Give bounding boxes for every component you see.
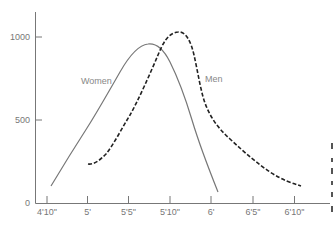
y-tick-label-0: 0 — [25, 198, 30, 208]
y-tick-label-500: 500 — [15, 115, 30, 125]
x-tick-label: 6' — [208, 207, 215, 217]
clipped-text-fragment — [331, 206, 333, 212]
men-series-label: Men — [205, 74, 223, 84]
women-series-line — [51, 44, 218, 192]
clipped-text-fragment — [331, 143, 333, 149]
clipped-text-fragment — [331, 158, 333, 162]
x-tick-label: 6'10'' — [284, 207, 304, 217]
men-series-line — [88, 32, 301, 186]
x-tick-label: 5'10'' — [160, 207, 180, 217]
x-tick-label: 4'10'' — [37, 207, 57, 217]
clipped-text-fragment — [331, 168, 333, 174]
x-tick-label: 6'5'' — [245, 207, 260, 217]
clipped-text-fragment — [331, 192, 333, 197]
x-tick-label: 5'5'' — [121, 207, 136, 217]
clipped-text-fragment — [331, 181, 333, 185]
y-tick-label-1000: 1000 — [10, 32, 30, 42]
x-tick-label: 5' — [84, 207, 91, 217]
height-distribution-chart: 1000 500 0 4'10'' 5' 5'5'' 5'10'' 6' 6'5… — [0, 0, 335, 228]
women-series-label: Women — [81, 76, 112, 86]
